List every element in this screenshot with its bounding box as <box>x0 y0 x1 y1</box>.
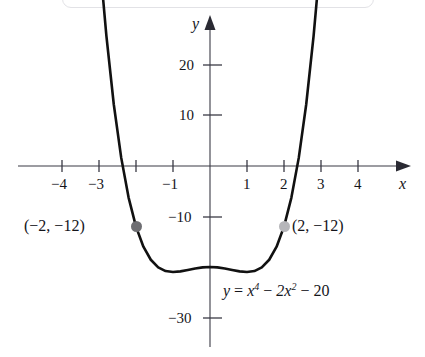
y-axis-arrow-icon <box>205 15 216 30</box>
equation-equals: = <box>230 282 247 299</box>
point-marker-right <box>279 221 290 232</box>
equation-term3: 20 <box>313 282 329 299</box>
x-axis-arrow-icon <box>396 161 411 172</box>
y-tick-label-neg30: −30 <box>168 311 191 326</box>
equation-minus-2: − <box>296 282 313 299</box>
point-marker-left <box>131 221 142 232</box>
x-tick-label-2: 2 <box>280 177 288 192</box>
y-tick-label-neg10: −10 <box>168 210 191 225</box>
x-tick-label-1: 1 <box>243 177 251 192</box>
y-tick-label-10: 10 <box>179 108 194 123</box>
x-tick-label-4: 4 <box>354 177 362 192</box>
y-axis-label: y <box>192 16 199 32</box>
y-tick-label-20: 20 <box>179 58 194 73</box>
y-axis-ticks <box>203 65 222 318</box>
graph-figure: −4 −3 −1 1 2 3 4 20 10 −10 −30 y x (−2, … <box>0 0 425 357</box>
x-tick-label-neg3: −3 <box>88 177 104 192</box>
point-label-left: (−2, −12) <box>24 218 85 234</box>
equation-minus-1: − <box>259 282 276 299</box>
equation-label: y = x4 − 2x2 − 20 <box>223 283 329 299</box>
x-tick-label-3: 3 <box>317 177 325 192</box>
x-tick-label-neg1: −1 <box>162 177 178 192</box>
point-label-right: (2, −12) <box>292 218 344 234</box>
x-tick-label-neg4: −4 <box>51 177 67 192</box>
equation-term2: 2x <box>276 282 291 299</box>
x-axis-label: x <box>399 176 406 192</box>
